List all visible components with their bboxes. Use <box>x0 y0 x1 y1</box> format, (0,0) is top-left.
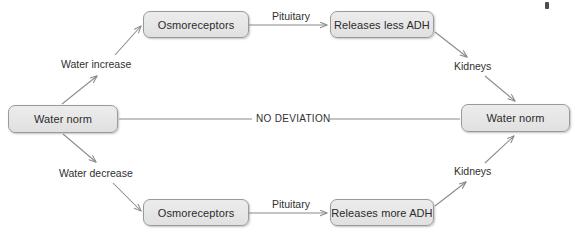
node-releases-more-adh[interactable]: Releases more ADH <box>330 199 434 226</box>
node-label: Osmoreceptors <box>158 207 235 219</box>
edge-label-no-deviation: NO DEVIATION <box>256 113 331 124</box>
edge-label-kidneys-top: Kidneys <box>454 60 491 72</box>
connector-kidneys-top-to-norm-right <box>485 76 515 101</box>
node-osmoreceptors-top[interactable]: Osmoreceptors <box>143 11 249 38</box>
node-water-norm-left[interactable]: Water norm <box>8 105 118 133</box>
node-label: Water norm <box>34 113 92 125</box>
diagram-canvas: Water norm Osmoreceptors Releases less A… <box>0 0 575 238</box>
edge-label-water-increase: Water increase <box>61 58 131 70</box>
node-water-norm-right[interactable]: Water norm <box>461 104 570 132</box>
scan-artifact-speck <box>545 2 549 9</box>
edge-label-pituitary-bottom: Pituitary <box>272 198 310 210</box>
edge-label-water-decrease: Water decrease <box>59 167 133 179</box>
node-label: Water norm <box>486 112 544 124</box>
edge-label-kidneys-bottom: Kidneys <box>454 165 491 177</box>
connector-kidneys-bottom-to-norm-right <box>485 136 514 163</box>
node-label: Releases less ADH <box>334 19 430 31</box>
node-label: Osmoreceptors <box>158 19 235 31</box>
connector-more-adh-to-kidneys-bottom <box>435 182 466 206</box>
edge-label-pituitary-top: Pituitary <box>272 10 310 22</box>
connector-less-adh-to-kidneys-top <box>435 32 467 57</box>
node-osmoreceptors-bottom[interactable]: Osmoreceptors <box>143 199 249 226</box>
node-releases-less-adh[interactable]: Releases less ADH <box>330 11 434 38</box>
node-label: Releases more ADH <box>331 207 432 219</box>
